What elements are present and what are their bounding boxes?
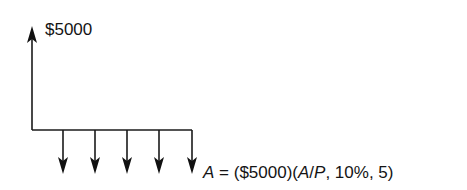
annuity-equation: A = ($5000)(A/P, 10%, 5): [203, 163, 393, 183]
equation-factor-a: A: [298, 163, 309, 182]
equation-factor-p: P: [314, 163, 325, 182]
receipt-label: $5000: [45, 20, 92, 40]
equation-lhs: A: [203, 163, 214, 182]
equation-principal: ($5000): [234, 163, 293, 182]
equation-equals: =: [214, 163, 233, 182]
equation-factor-rest: , 10%, 5): [325, 163, 393, 182]
